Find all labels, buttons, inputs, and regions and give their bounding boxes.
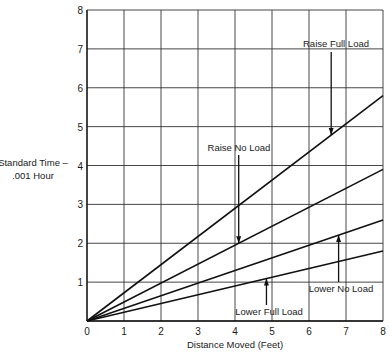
x-tick-label: 8 (380, 326, 386, 337)
x-axis-ticks: 012345678 (84, 326, 386, 337)
y-tick-label: 4 (77, 161, 83, 172)
y-axis-label-line1: Standard Time – (0, 157, 69, 168)
y-tick-label: 8 (77, 5, 83, 16)
x-tick-label: 0 (84, 326, 90, 337)
annotation-raise-full-load: Raise Full Load (303, 38, 369, 135)
y-tick-label: 3 (77, 199, 83, 210)
y-axis-ticks: 12345678 (77, 5, 83, 288)
annotation-label: Raise No Load (208, 142, 271, 153)
annotation-label: Lower Full Load (235, 306, 303, 317)
y-tick-label: 6 (77, 83, 83, 94)
x-tick-label: 7 (343, 326, 349, 337)
line-chart: 12345678 012345678 Raise Full LoadRaise … (0, 0, 390, 353)
annotation-label: Lower No Load (309, 283, 373, 294)
y-tick-label: 1 (77, 277, 83, 288)
y-tick-label: 5 (77, 122, 83, 133)
series-annotations: Raise Full LoadRaise No LoadLower No Loa… (208, 38, 374, 317)
y-tick-label: 7 (77, 44, 83, 55)
annotation-raise-no-load: Raise No Load (208, 142, 271, 243)
x-axis-label: Distance Moved (Feet) (187, 339, 283, 350)
annotation-label: Raise Full Load (303, 38, 369, 49)
x-tick-label: 2 (158, 326, 164, 337)
annotation-lower-no-load: Lower No Load (309, 235, 373, 294)
x-tick-label: 5 (269, 326, 275, 337)
x-tick-label: 6 (306, 326, 312, 337)
x-tick-label: 4 (232, 326, 238, 337)
x-tick-label: 1 (121, 326, 127, 337)
x-tick-label: 3 (195, 326, 201, 337)
y-tick-label: 2 (77, 238, 83, 249)
y-axis-label-line2: .001 Hour (12, 170, 54, 181)
